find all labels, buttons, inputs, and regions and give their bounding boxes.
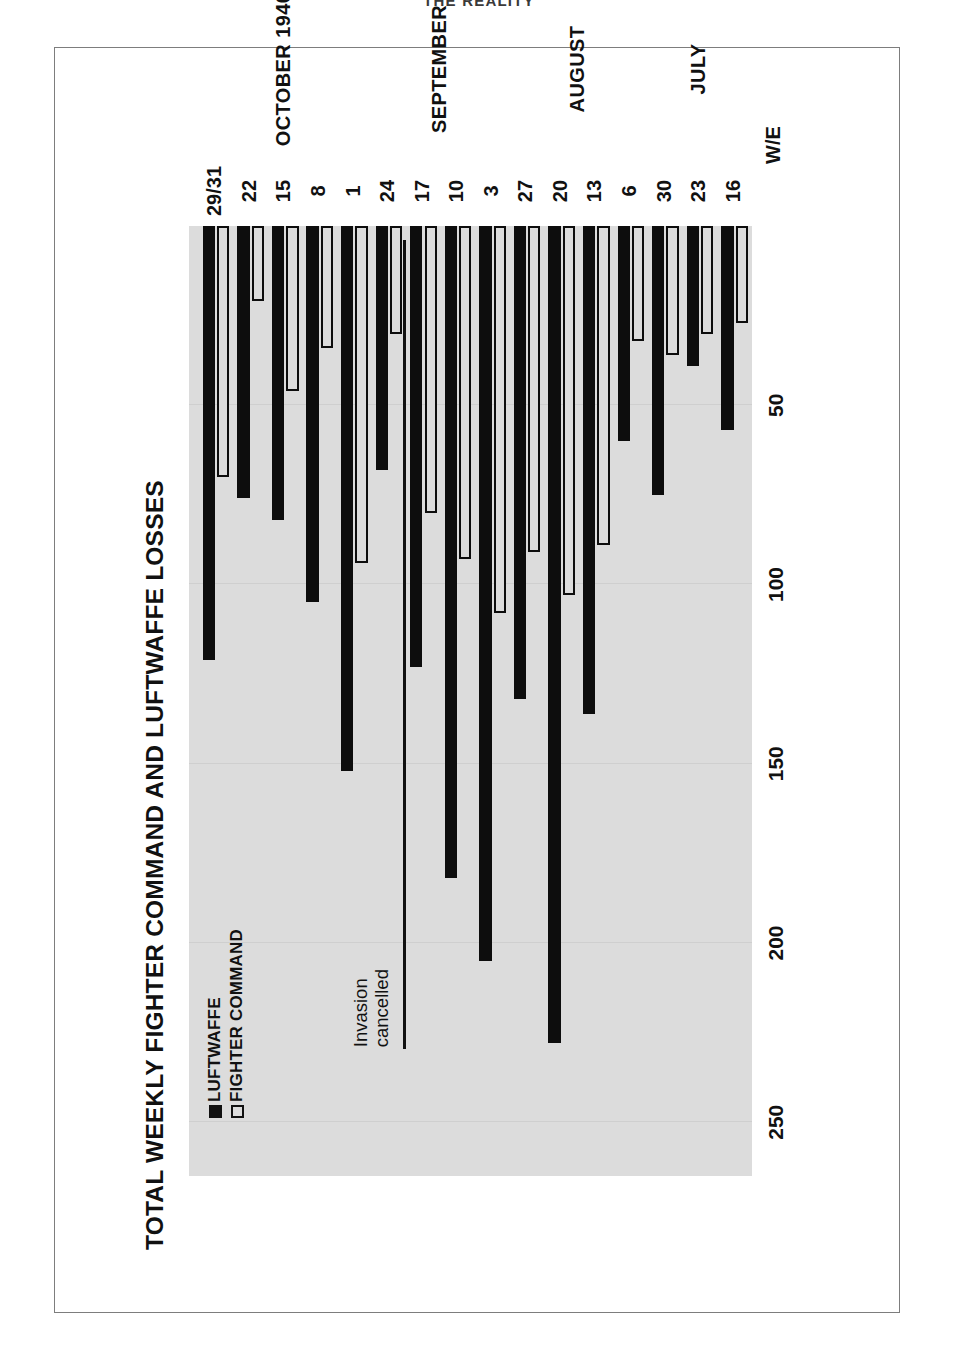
category-tick-label: 13 bbox=[583, 162, 606, 220]
bar-luftwaffe bbox=[272, 226, 284, 520]
gridline bbox=[189, 584, 752, 585]
bar-luftwaffe bbox=[583, 226, 595, 714]
legend-label: LUFTWAFFE bbox=[205, 997, 225, 1102]
bar-luftwaffe bbox=[652, 226, 664, 495]
bar-fighter-command bbox=[528, 226, 540, 552]
value-tick-label: 200 bbox=[764, 903, 788, 983]
bar-fighter-command bbox=[666, 226, 678, 355]
week-ending-label: W/E bbox=[762, 126, 785, 164]
legend-label: FIGHTER COMMAND bbox=[227, 929, 247, 1102]
chart-legend: LUFTWAFFEFIGHTER COMMAND bbox=[205, 929, 249, 1118]
bar-luftwaffe bbox=[445, 226, 457, 878]
bar-luftwaffe bbox=[514, 226, 526, 699]
bar-luftwaffe bbox=[687, 226, 699, 366]
invasion-cancelled-rule bbox=[403, 240, 406, 1049]
bar-luftwaffe bbox=[341, 226, 353, 771]
category-tick-label: 22 bbox=[238, 162, 261, 220]
bar-fighter-command bbox=[355, 226, 367, 563]
invasion-cancelled-label: Invasioncancelled bbox=[351, 969, 392, 1047]
category-tick-label: 1 bbox=[342, 162, 365, 220]
page-frame: TOTAL WEEKLY FIGHTER COMMAND AND LUFTWAF… bbox=[54, 47, 900, 1313]
bar-fighter-command bbox=[286, 226, 298, 391]
category-tick-label: 30 bbox=[653, 162, 676, 220]
month-label: SEPTEMBER bbox=[428, 0, 451, 164]
legend-swatch-luftwaffe-icon bbox=[209, 1105, 222, 1118]
bar-luftwaffe bbox=[618, 226, 630, 441]
bar-fighter-command bbox=[252, 226, 264, 301]
gridline bbox=[189, 942, 752, 943]
month-label: AUGUST bbox=[566, 0, 589, 164]
value-tick-label: 100 bbox=[764, 545, 788, 625]
bar-fighter-command bbox=[459, 226, 471, 559]
bar-fighter-command bbox=[736, 226, 748, 323]
plot-area: Invasioncancelled bbox=[189, 226, 752, 1176]
value-tick-label: 50 bbox=[764, 365, 788, 445]
category-tick-label: 23 bbox=[687, 162, 710, 220]
bar-fighter-command bbox=[425, 226, 437, 513]
category-tick-label: 17 bbox=[411, 162, 434, 220]
legend-swatch-fighter-command-icon bbox=[231, 1105, 244, 1118]
bar-fighter-command bbox=[563, 226, 575, 595]
rotated-figure: TOTAL WEEKLY FIGHTER COMMAND AND LUFTWAF… bbox=[127, 110, 827, 1250]
category-tick-label: 15 bbox=[272, 162, 295, 220]
annotation-line: Invasion bbox=[351, 969, 372, 1047]
value-tick-label: 150 bbox=[764, 724, 788, 804]
category-tick-label: 29/31 bbox=[203, 162, 226, 220]
bar-luftwaffe bbox=[376, 226, 388, 470]
category-tick-label: 24 bbox=[376, 162, 399, 220]
bar-fighter-command bbox=[632, 226, 644, 341]
annotation-line: cancelled bbox=[372, 969, 393, 1047]
bar-fighter-command bbox=[701, 226, 713, 334]
category-tick-label: 20 bbox=[549, 162, 572, 220]
bar-fighter-command bbox=[597, 226, 609, 545]
chart-title: TOTAL WEEKLY FIGHTER COMMAND AND LUFTWAF… bbox=[141, 110, 169, 1250]
bar-luftwaffe bbox=[548, 226, 560, 1043]
bar-luftwaffe bbox=[306, 226, 318, 602]
page-running-head: THE REALITY bbox=[0, 0, 958, 9]
bar-luftwaffe bbox=[479, 226, 491, 961]
category-tick-label: 8 bbox=[307, 162, 330, 220]
category-tick-label: 16 bbox=[722, 162, 745, 220]
category-tick-label: 3 bbox=[480, 162, 503, 220]
month-label: JULY bbox=[687, 0, 710, 164]
value-tick-label: 250 bbox=[764, 1082, 788, 1162]
bar-fighter-command bbox=[494, 226, 506, 613]
bar-luftwaffe bbox=[410, 226, 422, 667]
bar-fighter-command bbox=[321, 226, 333, 348]
bar-luftwaffe bbox=[203, 226, 215, 660]
bar-luftwaffe bbox=[237, 226, 249, 498]
category-tick-label: 6 bbox=[618, 162, 641, 220]
figure-inner: TOTAL WEEKLY FIGHTER COMMAND AND LUFTWAF… bbox=[127, 110, 827, 1250]
bar-luftwaffe bbox=[721, 226, 733, 430]
category-tick-label: 27 bbox=[514, 162, 537, 220]
legend-item: LUFTWAFFE bbox=[205, 929, 225, 1118]
bar-fighter-command bbox=[390, 226, 402, 334]
bar-fighter-command bbox=[217, 226, 229, 477]
gridline bbox=[189, 763, 752, 764]
month-label: OCTOBER 1940 bbox=[272, 0, 295, 164]
category-tick-label: 10 bbox=[445, 162, 468, 220]
gridline bbox=[189, 1121, 752, 1122]
legend-item: FIGHTER COMMAND bbox=[227, 929, 247, 1118]
